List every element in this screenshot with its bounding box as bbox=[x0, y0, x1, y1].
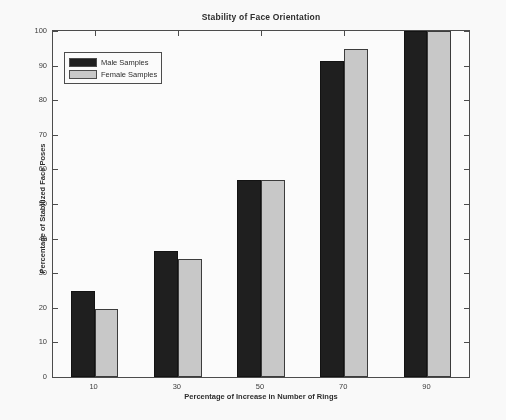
y-axis-tick-mark bbox=[464, 66, 469, 67]
y-axis-tick-label: 50 bbox=[7, 199, 47, 208]
y-axis-tick-mark bbox=[464, 308, 469, 309]
x-axis-label: Percentage of Increase in Number of Ring… bbox=[52, 392, 470, 401]
x-axis-tick-label: 90 bbox=[406, 382, 446, 391]
y-axis-tick-mark bbox=[464, 31, 469, 32]
chart-legend: Male SamplesFemale Samples bbox=[64, 52, 162, 84]
legend-label: Male Samples bbox=[101, 58, 149, 67]
y-axis-tick-mark bbox=[53, 66, 58, 67]
bar-female-samples-30 bbox=[178, 259, 202, 377]
y-axis-tick-label: 80 bbox=[7, 95, 47, 104]
legend-swatch-female bbox=[69, 70, 97, 79]
bar-female-samples-50 bbox=[261, 180, 285, 377]
y-axis-tick-label: 0 bbox=[7, 372, 47, 381]
x-axis-tick-mark bbox=[261, 31, 262, 36]
y-axis-tick-label: 40 bbox=[7, 233, 47, 242]
x-axis-tick-mark bbox=[344, 31, 345, 36]
y-axis-tick-mark bbox=[464, 204, 469, 205]
y-axis-tick-label: 70 bbox=[7, 129, 47, 138]
y-axis-tick-mark bbox=[464, 239, 469, 240]
y-axis-tick-mark bbox=[53, 239, 58, 240]
legend-swatch-male bbox=[69, 58, 97, 67]
x-axis-tick-mark bbox=[178, 31, 179, 36]
y-axis-tick-mark bbox=[53, 342, 58, 343]
bar-male-samples-10 bbox=[71, 291, 95, 377]
bar-female-samples-10 bbox=[95, 309, 119, 377]
y-axis-tick-label: 20 bbox=[7, 302, 47, 311]
y-axis-tick-mark bbox=[53, 100, 58, 101]
y-axis-tick-label: 100 bbox=[7, 26, 47, 35]
legend-item: Female Samples bbox=[69, 68, 157, 80]
bar-male-samples-50 bbox=[237, 180, 261, 377]
bar-male-samples-70 bbox=[320, 61, 344, 377]
y-axis-tick-label: 30 bbox=[7, 268, 47, 277]
y-axis-tick-mark bbox=[464, 169, 469, 170]
y-axis-tick-label: 60 bbox=[7, 164, 47, 173]
y-axis-tick-mark bbox=[53, 308, 58, 309]
y-axis-tick-mark bbox=[53, 135, 58, 136]
bar-female-samples-70 bbox=[344, 49, 368, 377]
y-axis-tick-mark bbox=[53, 204, 58, 205]
bar-male-samples-30 bbox=[154, 251, 178, 377]
y-axis-tick-mark bbox=[464, 135, 469, 136]
y-axis-tick-mark bbox=[53, 273, 58, 274]
y-axis-tick-mark bbox=[464, 100, 469, 101]
y-axis-tick-label: 10 bbox=[7, 337, 47, 346]
y-axis-tick-mark bbox=[464, 273, 469, 274]
y-axis-tick-label: 90 bbox=[7, 60, 47, 69]
page-title: Stability of Face Orientation bbox=[52, 12, 470, 22]
legend-item: Male Samples bbox=[69, 56, 157, 68]
bar-male-samples-90 bbox=[404, 31, 428, 377]
x-axis-tick-label: 10 bbox=[74, 382, 114, 391]
y-axis-tick-mark bbox=[464, 377, 469, 378]
figure-canvas: Stability of Face Orientation Percentage… bbox=[0, 0, 506, 420]
y-axis-tick-mark bbox=[53, 169, 58, 170]
x-axis-tick-label: 70 bbox=[323, 382, 363, 391]
legend-label: Female Samples bbox=[101, 70, 157, 79]
y-axis-tick-mark bbox=[464, 342, 469, 343]
bar-female-samples-90 bbox=[427, 31, 451, 377]
y-axis-label: Percentage of Stabilized Face Poses bbox=[38, 89, 47, 329]
y-axis-tick-mark bbox=[53, 31, 58, 32]
y-axis-tick-mark bbox=[53, 377, 58, 378]
x-axis-tick-label: 30 bbox=[157, 382, 197, 391]
x-axis-tick-mark bbox=[95, 31, 96, 36]
x-axis-tick-label: 50 bbox=[240, 382, 280, 391]
